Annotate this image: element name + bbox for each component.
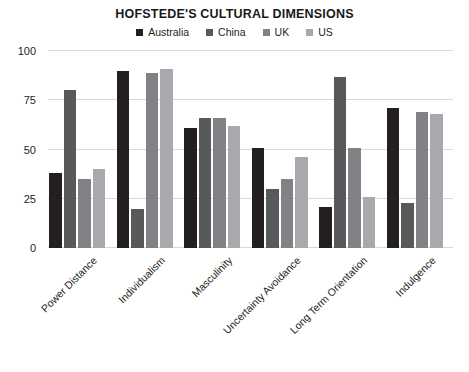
bar-australia-power-distance[interactable] [49,173,62,248]
bar-group [252,51,308,248]
bar-chart: HOFSTEDE'S CULTURAL DIMENSIONS Australia… [0,0,469,372]
legend-item-uk[interactable]: UK [263,26,290,38]
bars-layer [48,51,453,248]
x-tick-label: Long Term Orientation [287,254,369,336]
bar-uk-masculinity[interactable] [213,118,226,248]
bar-australia-long-term-orientation[interactable] [319,207,332,248]
bar-china-power-distance[interactable] [64,90,77,248]
legend-item-australia[interactable]: Australia [136,26,189,38]
bar-australia-uncertainty-avoidance[interactable] [252,148,265,248]
y-tick-label: 75 [24,94,36,106]
bar-us-indulgence[interactable] [430,114,443,248]
y-tick-label: 50 [24,144,36,156]
bar-australia-masculinity[interactable] [184,128,197,248]
y-tick-label: 0 [30,242,36,254]
legend-swatch-icon [263,29,270,36]
bar-group [117,51,173,248]
bar-china-indulgence[interactable] [401,203,414,248]
legend-item-us[interactable]: US [306,26,333,38]
bar-group [387,51,443,248]
bar-group [319,51,375,248]
bar-china-long-term-orientation[interactable] [334,77,347,248]
x-tick-label: Indulgence [393,254,438,299]
legend-item-china[interactable]: China [206,26,245,38]
chart-legend: AustraliaChinaUKUS [0,26,469,38]
chart-title: HOFSTEDE'S CULTURAL DIMENSIONS [0,7,469,21]
bar-group [184,51,240,248]
plot-area [48,51,453,248]
bar-uk-uncertainty-avoidance[interactable] [281,179,294,248]
legend-item-label: UK [275,26,290,38]
bar-uk-long-term-orientation[interactable] [348,148,361,248]
bar-us-masculinity[interactable] [228,126,241,248]
bar-us-long-term-orientation[interactable] [363,197,376,248]
y-tick-label: 25 [24,193,36,205]
x-tick-label: Power Distance [39,254,99,314]
legend-item-label: Australia [148,26,189,38]
bar-china-individualism[interactable] [131,209,144,248]
legend-swatch-icon [206,29,213,36]
legend-item-label: US [318,26,333,38]
bar-australia-individualism[interactable] [117,71,130,248]
bar-uk-indulgence[interactable] [416,112,429,248]
y-axis: 0255075100 [0,51,44,248]
legend-item-label: China [218,26,245,38]
bar-china-uncertainty-avoidance[interactable] [266,189,279,248]
bar-us-uncertainty-avoidance[interactable] [295,157,308,248]
legend-swatch-icon [306,29,313,36]
bar-group [49,51,105,248]
bar-us-power-distance[interactable] [93,169,106,248]
bar-china-masculinity[interactable] [199,118,212,248]
x-tick-label: Masculinity [189,254,234,299]
x-axis: Power DistanceIndividualismMasculinityUn… [48,248,453,372]
x-tick-label: Individualism [115,254,166,305]
bar-australia-indulgence[interactable] [387,108,400,248]
bar-uk-individualism[interactable] [146,73,159,248]
bar-us-individualism[interactable] [160,69,173,248]
legend-swatch-icon [136,29,143,36]
y-tick-label: 100 [18,45,36,57]
bar-uk-power-distance[interactable] [78,179,91,248]
